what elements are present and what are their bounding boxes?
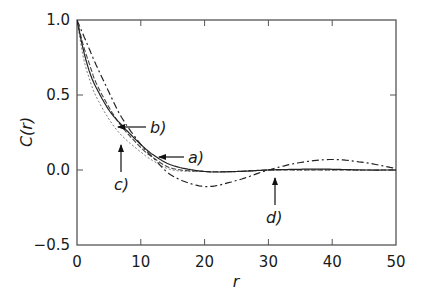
x-axis-label: r [233, 272, 241, 291]
x-tick-label-40: 40 [323, 253, 342, 271]
annotation-b: b) [118, 118, 166, 137]
curve-b [77, 20, 396, 172]
x-tick-label-0: 0 [72, 253, 82, 271]
curves [77, 20, 396, 187]
correlation-chart: 0 10 20 30 40 50 1.0 0.5 0.0 −0.5 r C(r)… [0, 0, 422, 296]
y-tick-label-0.5: 0.5 [46, 86, 70, 104]
curve-c [77, 20, 396, 172]
y-tick-label-0.0: 0.0 [46, 161, 70, 179]
y-axis-label: C(r) [17, 117, 36, 147]
annotation-d: d) [266, 178, 282, 227]
annotation-a: a) [159, 148, 204, 167]
curve-d [77, 20, 396, 187]
label-a: a) [188, 148, 204, 167]
x-ticks [141, 20, 332, 245]
y-tick-label-minus-0.5: −0.5 [34, 236, 70, 254]
label-c: c) [114, 175, 129, 194]
x-tick-label-30: 30 [259, 253, 278, 271]
x-tick-label-10: 10 [131, 253, 150, 271]
x-tick-label-50: 50 [386, 253, 405, 271]
curve-a [77, 20, 396, 172]
plot-frame [77, 20, 396, 245]
y-tick-label-1.0: 1.0 [46, 11, 70, 29]
y-ticks [77, 95, 396, 170]
label-d: d) [266, 208, 282, 227]
annotation-c: c) [114, 145, 129, 194]
label-b: b) [150, 118, 166, 137]
x-tick-label-20: 20 [195, 253, 214, 271]
